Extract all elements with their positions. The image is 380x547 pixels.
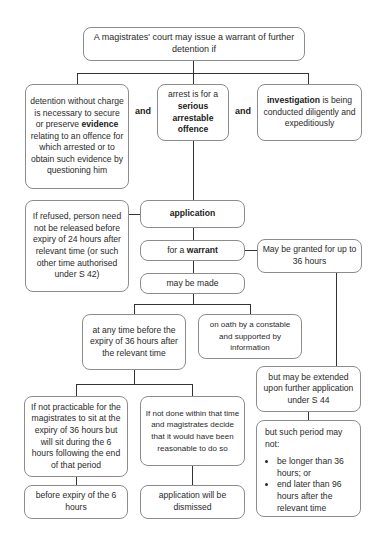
root-box: A magistrates' court may issue a warrant… [83,27,305,61]
limits-intro: but such period may not: [265,427,352,450]
application-text: application [170,208,215,220]
dismissed-text: application will be dismissed [145,490,240,513]
timing-box: at any time before the expiry of 36 hour… [82,314,186,370]
connector [129,214,140,215]
root-text: A magistrates' court may issue a warrant… [88,32,300,55]
limits-item: end later than 96 hours after the releva… [277,479,352,514]
connector [192,384,193,396]
not-practicable-text: If not practicable for the magistrates t… [29,402,123,472]
connector [193,73,194,84]
granted-box: May be granted for up to 36 hours [257,239,362,273]
connector [76,384,193,385]
extended-text: but may be extended upon further applica… [261,372,356,407]
connector [134,370,135,384]
may-be-made-text: may be made [166,278,218,290]
application-box: application [140,200,245,228]
limits-list: be longer than 36 hours; or end later th… [265,456,352,514]
condition-text: arrest is for a [168,89,218,99]
condition-keyword: evidence [82,119,119,129]
and-label: and [135,106,151,116]
condition-offence-box: arrest is for a serious arrestable offen… [157,84,229,141]
condition-keyword: investigation [267,95,320,105]
oath-text: on oath by a constable and supported by … [203,319,297,354]
connector [193,294,194,304]
warrant-box: for a warrant [140,240,245,261]
not-practicable-box: If not practicable for the magistrates t… [24,396,128,477]
condition-keyword: serious arrestable offence [172,101,213,134]
condition-evidence-box: detention without charge is necessary to… [25,84,129,189]
condition-investigation-box: investigation is being conducted diligen… [257,84,362,141]
and-label: and [235,106,251,116]
warrant-text: for a [167,245,187,255]
may-be-made-box: may be made [140,273,245,294]
connector [76,477,77,485]
connector [134,304,135,314]
before-expiry-box: before expiry of the 6 hours [24,485,128,519]
refused-text: If refused, person need not be released … [30,211,124,281]
connector [193,228,194,240]
connector [193,141,194,200]
not-done-text: If not done within that time and magistr… [145,408,240,454]
connector [336,273,337,366]
warrant-keyword: warrant [187,245,218,255]
connector [192,466,193,485]
refused-box: If refused, person need not be released … [25,200,129,292]
granted-text: May be granted for up to 36 hours [262,244,357,267]
extended-box: but may be extended upon further applica… [256,366,361,412]
dismissed-box: application will be dismissed [140,485,245,519]
condition-text: relating to an offence for which arreste… [31,131,124,176]
connector [76,384,77,396]
connector [308,73,309,84]
connector [250,304,251,314]
limits-item: be longer than 36 hours; or [277,456,352,479]
before-expiry-text: before expiry of the 6 hours [29,490,123,513]
connector [245,250,257,251]
connector [134,304,251,305]
connector [308,412,309,420]
connector [77,73,78,84]
limits-box: but such period may not: be longer than … [256,420,361,517]
connector [193,261,194,273]
not-done-box: If not done within that time and magistr… [140,396,245,466]
timing-text: at any time before the expiry of 36 hour… [87,325,181,360]
oath-box: on oath by a constable and supported by … [198,314,302,359]
